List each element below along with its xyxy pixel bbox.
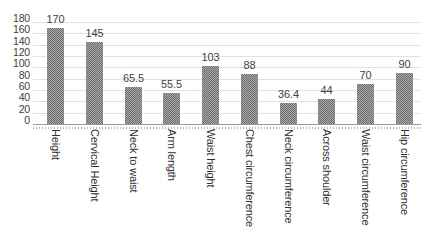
- y-axis-tick-label: 180: [0, 13, 30, 24]
- gridline: [33, 22, 421, 23]
- y-axis-tick-label: 100: [0, 58, 30, 69]
- bar: [163, 93, 180, 124]
- bar: [280, 103, 297, 124]
- plot-area: 17014565.555.51038836.4447090: [33, 22, 421, 124]
- bar: [357, 84, 374, 124]
- x-axis-category-label: Waist height: [205, 129, 216, 187]
- bar-value-label: 90: [385, 59, 424, 70]
- x-axis-category-label: Neck circumference: [283, 129, 294, 224]
- bar: [241, 74, 258, 124]
- x-axis-category-label: Chest circumference: [244, 129, 255, 227]
- y-axis: 020406080100120140160180: [0, 18, 30, 126]
- x-axis-category-label: Hip circumference: [399, 129, 410, 215]
- x-axis-category-label: Across shoulder: [321, 129, 332, 206]
- bar: [47, 28, 64, 124]
- bar-value-label: 88: [230, 60, 269, 71]
- bar: [86, 42, 103, 124]
- y-axis-tick-label: 120: [0, 47, 30, 58]
- x-axis-category-label: Height: [50, 129, 61, 160]
- y-axis-tick-label: 160: [0, 24, 30, 35]
- bar-value-label: 55.5: [152, 79, 191, 90]
- bar: [125, 87, 142, 124]
- bar-chart: 020406080100120140160180 17014565.555.51…: [0, 0, 435, 251]
- bar-value-label: 44: [307, 85, 346, 96]
- x-axis-labels: HeightCervical HeightNeck to waistArm le…: [33, 129, 421, 249]
- y-axis-tick-label: 0: [0, 115, 30, 126]
- bar-value-label: 65.5: [114, 73, 153, 84]
- bar-value-label: 145: [75, 28, 114, 39]
- y-axis-tick-label: 40: [0, 92, 30, 103]
- x-axis-line: [33, 124, 421, 125]
- bar: [396, 73, 413, 124]
- bar-value-label: 170: [36, 14, 75, 25]
- x-axis-category-label: Waist circumference: [360, 129, 371, 225]
- bar: [318, 99, 335, 124]
- bar-value-label: 36.4: [269, 89, 308, 100]
- x-axis-category-label: Cervical Height: [89, 129, 100, 201]
- y-axis-tick-label: 80: [0, 70, 30, 81]
- bar-value-label: 70: [346, 70, 385, 81]
- bar: [202, 66, 219, 124]
- x-axis-category-label: Arm length: [166, 129, 177, 181]
- bar-value-label: 103: [191, 52, 230, 63]
- y-axis-tick-label: 20: [0, 104, 30, 115]
- x-axis-category-label: Neck to waist: [128, 129, 139, 192]
- y-axis-tick-label: 60: [0, 81, 30, 92]
- y-axis-tick-label: 140: [0, 36, 30, 47]
